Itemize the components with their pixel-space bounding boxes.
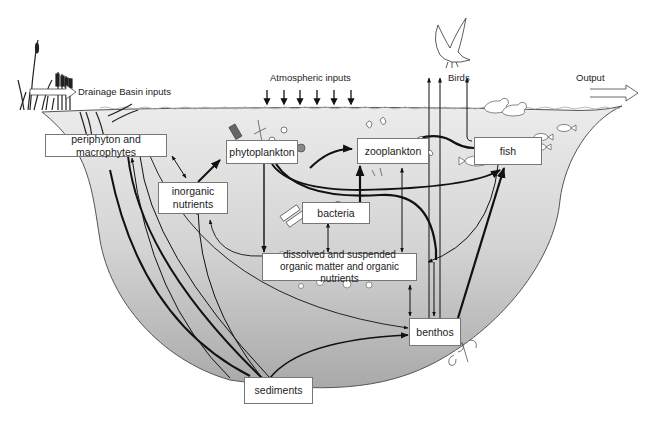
node-inorganic-nutrients: inorganic nutrients [158,182,228,214]
node-label: fish [500,145,516,158]
output-arrow [590,85,638,101]
atmospheric-input-arrows [265,90,354,104]
node-dissolved-organic-matter: dissolved and suspended organic matter a… [262,253,417,281]
node-label-line1: inorganic [172,185,215,198]
node-label-line2: nutrients [173,198,213,211]
node-label: periphyton and macrophytes [46,133,166,158]
node-benthos: benthos [409,318,461,346]
node-label: sediments [255,384,303,397]
node-bacteria: bacteria [302,202,370,224]
eagle-icon [435,18,470,68]
atmospheric-inputs-label: Atmospheric inputs [270,73,351,83]
drainage-basin-label: Drainage Basin inputs [78,87,171,97]
node-label: phytoplankton [229,146,294,159]
node-sediments: sediments [244,377,313,404]
node-label: zooplankton [365,145,422,158]
birds-label: Birds [448,73,470,83]
node-phytoplankton: phytoplankton [226,140,298,164]
node-periphyton-macrophytes: periphyton and macrophytes [45,134,167,157]
node-label-line1: dissolved and suspended [283,249,396,261]
node-label: benthos [416,326,453,339]
node-label: bacteria [317,207,354,220]
node-label-line2: organic matter and organic nutrients [263,261,416,285]
node-zooplankton: zooplankton [357,138,429,164]
output-label: Output [576,73,605,83]
node-fish: fish [474,137,542,165]
